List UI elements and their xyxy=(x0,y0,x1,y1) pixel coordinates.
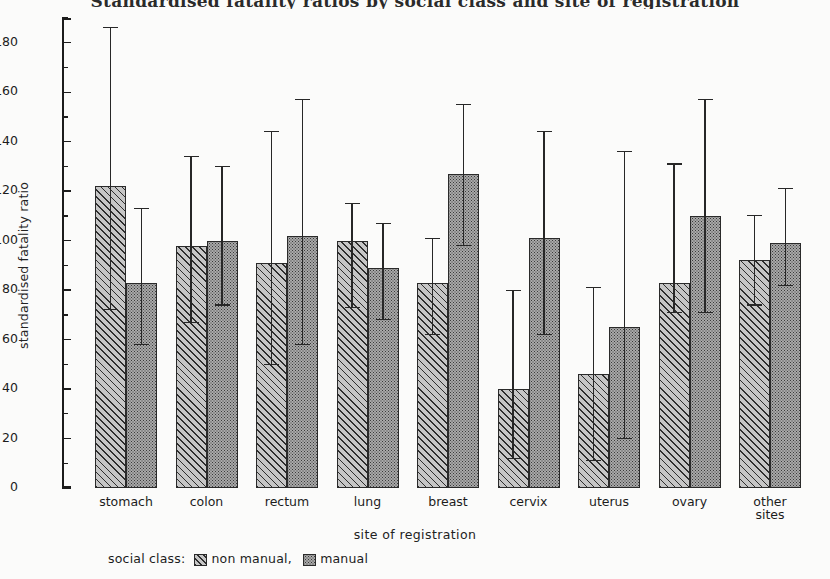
y-tick-major xyxy=(62,240,71,241)
error-bar-cap-lower xyxy=(345,307,360,308)
y-tick-label: 20 xyxy=(0,432,18,445)
error-bar-stem xyxy=(190,157,191,323)
plot-area: 020406080100120140160180 xyxy=(62,18,820,488)
error-bar-stem xyxy=(221,166,222,305)
error-bar-stem xyxy=(673,164,674,312)
error-bar-cap-lower xyxy=(264,364,279,365)
error-bar-breast-non-manual xyxy=(417,18,448,488)
error-bar-cap-upper xyxy=(215,166,230,167)
error-bar-cap-upper xyxy=(103,27,118,28)
y-tick-label: 160 xyxy=(0,85,18,98)
error-bar-stem xyxy=(543,132,544,335)
error-bar-colon-manual xyxy=(207,18,238,488)
y-tick-major xyxy=(62,92,71,93)
error-bar-cap-upper xyxy=(264,131,279,132)
y-tick-major xyxy=(62,339,71,340)
error-bar-cap-upper xyxy=(586,287,601,288)
y-tick-label: 100 xyxy=(0,234,18,247)
error-bar-stem xyxy=(754,216,755,305)
y-tick-label: 140 xyxy=(0,135,18,148)
error-bar-other-sites-manual xyxy=(770,18,801,488)
y-tick-label: 0 xyxy=(0,481,18,494)
category-label-cervix: cervix xyxy=(489,495,569,508)
error-bar-stem xyxy=(593,288,594,461)
legend-prefix: social class: xyxy=(108,551,185,566)
y-tick-label: 40 xyxy=(0,382,18,395)
y-tick-major xyxy=(62,190,71,191)
legend-label-non-manual: non manual, xyxy=(211,551,291,566)
error-bar-cap-upper xyxy=(425,238,440,239)
y-tick-minor xyxy=(62,265,68,266)
error-bar-cap-lower xyxy=(747,304,762,305)
error-bar-cap-upper xyxy=(537,131,552,132)
y-tick-label: 180 xyxy=(0,36,18,49)
error-bar-cap-lower xyxy=(134,344,149,345)
legend-spacer xyxy=(292,551,296,566)
y-tick-minor xyxy=(62,463,68,464)
legend-entry-non-manual[interactable]: non manual, xyxy=(194,551,291,566)
error-bar-cap-lower xyxy=(586,460,601,461)
error-bar-cap-lower xyxy=(506,458,521,459)
legend-label-manual: manual xyxy=(320,551,368,566)
error-bar-cap-lower xyxy=(667,312,682,313)
y-tick-label: 80 xyxy=(0,283,18,296)
legend-entry-manual[interactable]: manual xyxy=(303,551,368,566)
error-bar-stem xyxy=(141,208,142,344)
error-bar-rectum-non-manual xyxy=(256,18,287,488)
category-label-rectum: rectum xyxy=(247,495,327,508)
error-bar-stem xyxy=(785,189,786,285)
chart-title: Standardised fatality ratios by social c… xyxy=(0,0,830,9)
error-bar-cap-upper xyxy=(778,188,793,189)
error-bar-uterus-manual xyxy=(609,18,640,488)
error-bar-rectum-manual xyxy=(287,18,318,488)
error-bar-stem xyxy=(432,238,433,334)
y-tick-minor xyxy=(62,67,68,68)
legend-swatch-non-manual-icon xyxy=(194,554,207,566)
legend: social class: non manual, manual xyxy=(108,551,368,566)
error-bar-stem xyxy=(512,290,513,458)
error-bar-cap-lower xyxy=(456,245,471,246)
error-bar-cap-lower xyxy=(376,319,391,320)
y-tick-label: 60 xyxy=(0,333,18,346)
y-tick-minor xyxy=(62,116,68,117)
error-bar-stem xyxy=(382,223,383,319)
error-bar-lung-manual xyxy=(368,18,399,488)
error-bar-stem xyxy=(302,100,303,345)
error-bar-stomach-manual xyxy=(126,18,157,488)
error-bar-breast-manual xyxy=(448,18,479,488)
y-tick-major xyxy=(62,42,71,43)
error-bar-cap-lower xyxy=(184,322,199,323)
y-tick-major xyxy=(62,487,71,488)
error-bar-cap-lower xyxy=(103,309,118,310)
category-label-lung: lung xyxy=(328,495,408,508)
category-label-breast: breast xyxy=(408,495,488,508)
error-bar-stem xyxy=(704,100,705,313)
error-bar-stem xyxy=(463,105,464,246)
error-bar-cap-upper xyxy=(667,163,682,164)
error-bar-cap-upper xyxy=(134,208,149,209)
y-tick-label: 120 xyxy=(0,184,18,197)
error-bar-cap-lower xyxy=(537,334,552,335)
category-label-ovary: ovary xyxy=(650,495,730,508)
error-bar-cap-upper xyxy=(698,99,713,100)
category-label-stomach: stomach xyxy=(86,495,166,508)
error-bar-cap-lower xyxy=(617,438,632,439)
error-bar-other-sites-non-manual xyxy=(739,18,770,488)
error-bar-cap-upper xyxy=(376,223,391,224)
error-bar-cap-upper xyxy=(456,104,471,105)
error-bar-cervix-manual xyxy=(529,18,560,488)
y-tick-major xyxy=(62,141,71,142)
error-bar-cap-lower xyxy=(425,334,440,335)
y-tick-minor xyxy=(62,314,68,315)
y-tick-minor xyxy=(62,215,68,216)
error-bar-stem xyxy=(624,152,625,439)
category-label-other-sites: other sites xyxy=(730,495,810,521)
error-bar-uterus-non-manual xyxy=(578,18,609,488)
y-tick-minor xyxy=(62,413,68,414)
category-label-uterus: uterus xyxy=(569,495,649,508)
category-label-colon: colon xyxy=(167,495,247,508)
y-tick-minor xyxy=(62,364,68,365)
error-bar-stem xyxy=(271,132,272,365)
error-bar-colon-non-manual xyxy=(176,18,207,488)
error-bar-cap-upper xyxy=(506,290,521,291)
